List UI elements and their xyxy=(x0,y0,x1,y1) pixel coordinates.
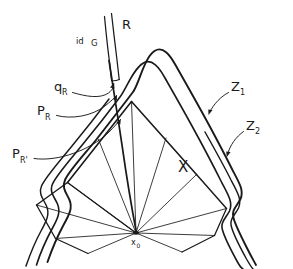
label-r-text: R xyxy=(122,17,131,32)
label-z1: Z 1 xyxy=(231,79,245,97)
label-x0-subscript: 0 xyxy=(137,242,141,249)
label-z2: Z 2 xyxy=(246,118,260,136)
label-p-r: P R xyxy=(37,103,51,122)
label-z2-subscript: 2 xyxy=(255,127,260,136)
label-id-g: id G xyxy=(76,36,98,48)
arrow-q-r xyxy=(73,84,114,97)
label-z2-main: Z xyxy=(246,118,255,133)
label-p-r-prime: P R' xyxy=(12,146,28,165)
label-g-text: G xyxy=(91,38,98,48)
label-p-r-subscript: R xyxy=(45,113,51,122)
outer-contour-z1 xyxy=(48,49,257,265)
fan-ray xyxy=(136,233,182,252)
arrowhead-z1 xyxy=(208,109,212,115)
fan-ray xyxy=(136,233,215,236)
arrowhead-z2 xyxy=(226,151,230,157)
label-z1-subscript: 1 xyxy=(240,88,245,97)
label-x: X xyxy=(178,158,188,176)
label-id-text: id xyxy=(76,36,84,46)
fan-ray xyxy=(136,209,227,234)
basepoint-dot xyxy=(133,231,139,235)
label-x0: x 0 xyxy=(131,238,141,249)
diagram-page: { "figure": { "title": "hand-drawn geome… xyxy=(0,0,293,269)
label-r: R xyxy=(122,17,131,32)
x-cone-region xyxy=(37,102,227,254)
label-p-r-main: P xyxy=(37,103,45,118)
label-q-r: q R xyxy=(54,79,68,97)
label-q-r-subscript: R xyxy=(62,88,68,97)
label-z1-main: Z xyxy=(231,79,240,94)
label-p-r-prime-main: P xyxy=(12,146,20,161)
r-strip xyxy=(105,14,120,81)
fan-rays xyxy=(37,102,227,254)
diagram-canvas: R id G q R P R P R' Z 1 Z 2 X x 0 xyxy=(0,0,293,269)
label-x0-main: x xyxy=(131,238,136,247)
arrow-z2 xyxy=(228,132,244,155)
arrow-z1 xyxy=(210,93,229,113)
fan-ray xyxy=(56,233,137,239)
label-p-r-prime-subscript: R' xyxy=(20,156,28,165)
label-x-text: X xyxy=(178,158,188,176)
